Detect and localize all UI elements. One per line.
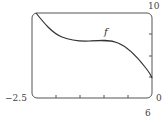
y-max-label: 10 — [148, 1, 160, 11]
function-graph: f −2.5 6 0 10 — [0, 0, 163, 118]
y-min-label: 0 — [156, 93, 162, 103]
x-min-label: −2.5 — [5, 93, 27, 103]
viewing-window-frame — [32, 13, 152, 98]
x-max-label: 6 — [145, 108, 151, 118]
curve-f — [36, 13, 152, 78]
curve-label-f: f — [103, 26, 110, 37]
